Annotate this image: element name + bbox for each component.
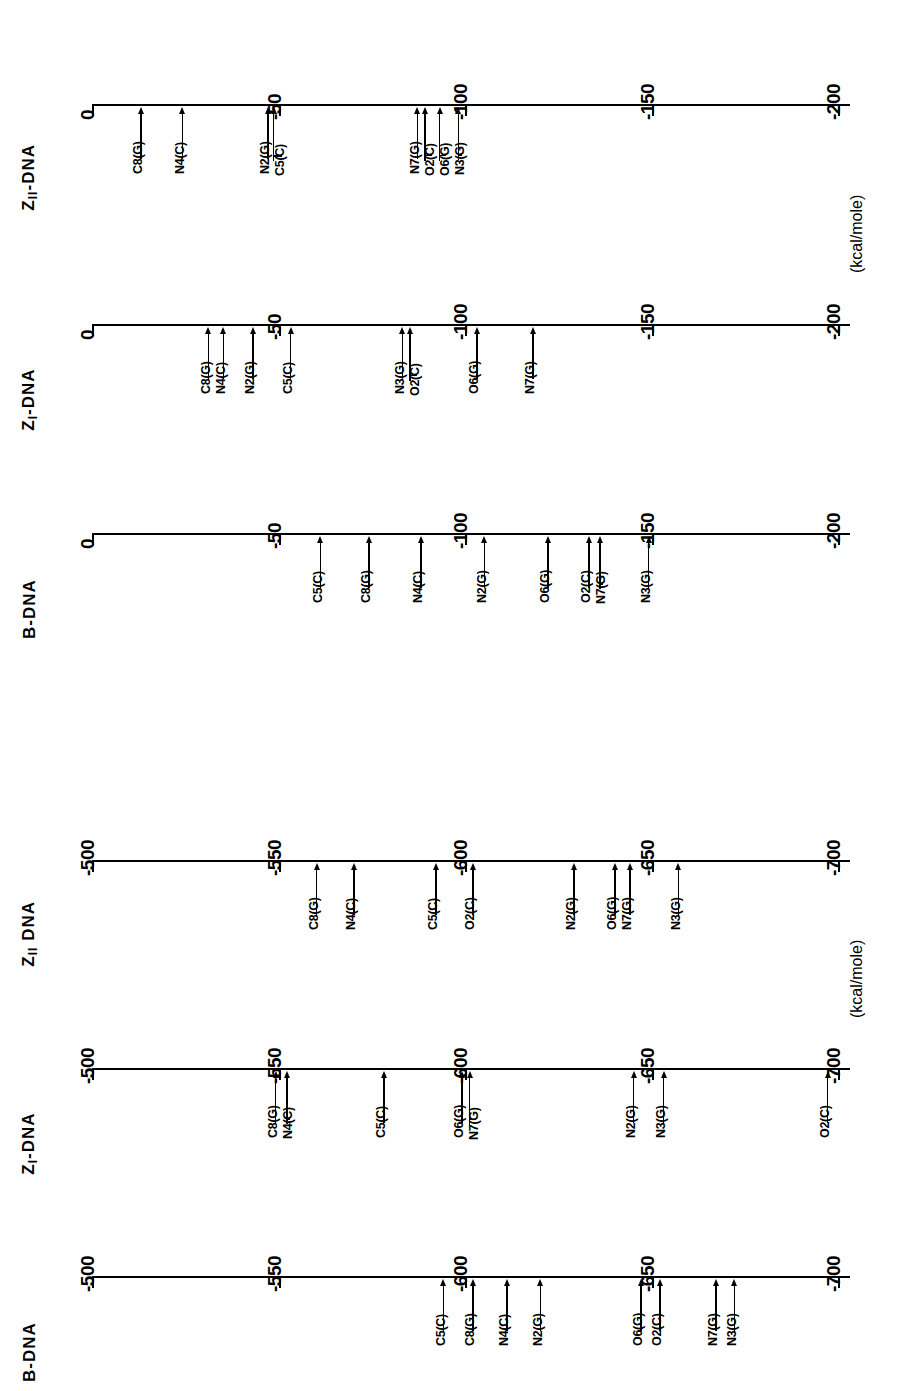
value-marker-label: O6(G) (452, 1105, 466, 1138)
value-marker-label: O2(C) (579, 570, 593, 603)
axis-tick-label: -700 (823, 840, 845, 876)
value-marker-label: C8(G) (266, 1105, 280, 1138)
axis-tick-label: -200 (823, 304, 845, 340)
value-marker-label: N7(G) (706, 1313, 720, 1346)
axis-tick-label: -500 (77, 840, 99, 876)
value-marker-label: N2(G) (258, 141, 272, 174)
value-marker-label: N3(G) (654, 1105, 668, 1138)
value-marker-label: C5(C) (434, 1314, 448, 1346)
value-marker-label: N3(G) (669, 897, 683, 930)
value-marker-label: C8(G) (307, 897, 321, 930)
axis-tick-label: -650 (637, 1048, 659, 1084)
axis-tick-label: -700 (823, 1256, 845, 1292)
value-marker-label: C8(G) (199, 361, 213, 394)
value-marker-label: N2(G) (531, 1313, 545, 1346)
value-marker-label: C5(C) (273, 145, 287, 177)
value-marker-label: N4(C) (173, 142, 187, 174)
value-marker-label: C8(G) (131, 141, 145, 174)
value-marker-label: N3(G) (639, 570, 653, 603)
value-marker-label: O6(G) (631, 1313, 645, 1346)
axis-tick-label: 0 (77, 539, 99, 549)
value-marker-label: C5(C) (426, 898, 440, 930)
value-marker-label: N2(G) (475, 570, 489, 603)
panel-title-b-dna-top: B-DNA (20, 579, 40, 639)
value-marker-label: N7(G) (467, 1107, 481, 1140)
axis-unit-label: (kcal/mole) (848, 940, 866, 1018)
value-marker-label: N7(G) (594, 571, 608, 604)
axis-tick-label: -150 (637, 304, 659, 340)
value-marker-label: C8(G) (463, 1313, 477, 1346)
value-marker-label: C5(C) (374, 1106, 388, 1138)
value-marker-label: O2(C) (818, 1105, 832, 1138)
value-marker-label: N7(G) (620, 897, 634, 930)
panel-title-z1-dna-bottom: ZI-DNA (19, 1112, 40, 1174)
value-marker-label: O6(G) (467, 361, 481, 394)
value-marker-label: N4(C) (281, 1107, 295, 1139)
value-marker-label: N3(G) (453, 142, 467, 175)
axis-tick-label: -650 (637, 840, 659, 876)
value-marker-label: N7(G) (408, 141, 422, 174)
value-marker-label: N3(G) (725, 1313, 739, 1346)
axis-tick-label: 0 (77, 330, 99, 340)
value-marker-label: O6(G) (538, 570, 552, 603)
value-marker-label: N2(G) (564, 897, 578, 930)
value-marker-label: N2(G) (624, 1105, 638, 1138)
axis-tick-label: -50 (264, 523, 286, 549)
panel-title-z1-dna-top: ZI-DNA (19, 368, 40, 430)
axis-unit-label: (kcal/mole) (848, 195, 866, 273)
axis-tick-label: -50 (264, 314, 286, 340)
axis-tick-label: -200 (823, 84, 845, 120)
axis-tick-label: -500 (77, 1048, 99, 1084)
value-marker-label: C5(C) (311, 571, 325, 603)
value-marker-label: C8(G) (359, 570, 373, 603)
value-marker-label: N7(G) (523, 361, 537, 394)
value-marker-label: N4(C) (344, 898, 358, 930)
value-marker-label: N3(G) (393, 361, 407, 394)
axis-tick-label: 0 (77, 110, 99, 120)
value-marker-label: O2(C) (463, 897, 477, 930)
axis-tick-label: -150 (637, 84, 659, 120)
value-marker-label: O6(G) (438, 143, 452, 176)
panel-title-b-dna-bottom: B-DNA (20, 1322, 40, 1382)
axis-tick-label: -100 (450, 84, 472, 120)
axis-tick-label: -550 (264, 1256, 286, 1292)
value-marker-label: N4(C) (497, 1314, 511, 1346)
value-marker-label: O6(G) (605, 897, 619, 930)
value-marker-label: N2(G) (243, 361, 257, 394)
value-marker-label: O2(C) (408, 363, 422, 396)
panel-title-z2-dna-top: ZII-DNA (19, 144, 40, 211)
axis-tick-label: -550 (264, 840, 286, 876)
axis-tick-label: -100 (450, 304, 472, 340)
axis-tick-label: -500 (77, 1256, 99, 1292)
axis-tick-label: -600 (450, 840, 472, 876)
value-marker-label: C5(C) (281, 362, 295, 394)
axis-tick-label: -200 (823, 513, 845, 549)
axis-tick-label: -600 (450, 1256, 472, 1292)
value-marker-label: O2(C) (650, 1313, 664, 1346)
panel-title-z2-dna-bottom: ZII DNA (19, 901, 40, 967)
value-marker-label: N4(C) (411, 571, 425, 603)
axis-tick-label: -100 (450, 513, 472, 549)
value-marker-label: O2(C) (423, 143, 437, 176)
value-marker-label: N4(C) (214, 362, 228, 394)
